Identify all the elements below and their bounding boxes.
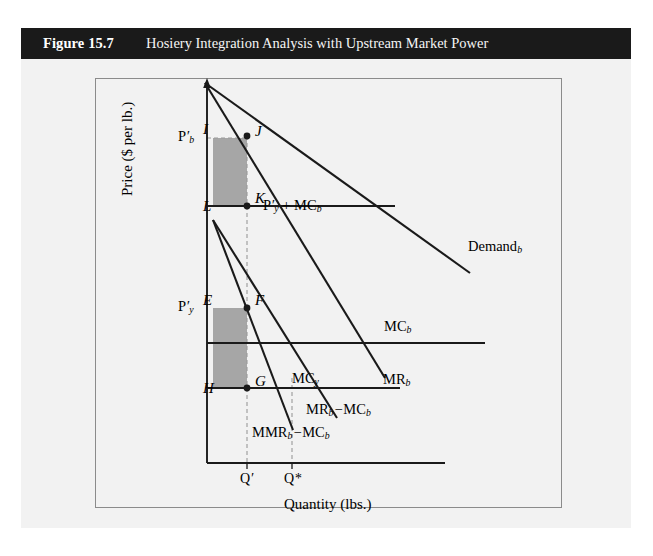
curve-label-demand-b-sub: b <box>517 244 522 255</box>
curve-label-mc-y: MCy <box>292 371 319 387</box>
x-tick-label-q-prime: Q′ <box>240 472 253 486</box>
curve-label-mc-b-sub: b <box>407 324 412 335</box>
point-label-i: I <box>203 122 208 137</box>
point-label-h: H <box>203 381 214 396</box>
y-tick-label-p-y: P′y <box>178 299 194 315</box>
x-tick-label-q-star: Q* <box>284 472 301 486</box>
curve-label-mc-b: MCb <box>384 319 412 335</box>
point-marker-f <box>244 305 251 312</box>
curve-label-mmrb-minus-mcb: MMRb−MCb <box>252 425 330 441</box>
curve-label-mc-b-text: MC <box>384 318 407 334</box>
curve-label-demand-b-text: Demand <box>468 238 517 254</box>
plot-canvas <box>95 78 562 508</box>
point-label-j: J <box>255 124 262 139</box>
point-label-l: L <box>203 199 211 214</box>
point-marker-g <box>244 385 251 392</box>
figure-number: Figure 15.7 <box>43 35 114 52</box>
point-marker-j <box>244 133 251 140</box>
curve-label-mr-b: MRb <box>383 372 411 388</box>
y-axis-title: Price ($ per lb.) <box>119 36 136 196</box>
point-label-g: G <box>255 374 266 389</box>
curve-label-mr-b-text: MR <box>383 371 406 387</box>
curve-label-mc-y-text: MC <box>292 370 315 386</box>
curve-label-demand-b: Demandb <box>468 239 522 255</box>
x-axis-title: Quantity (lbs.) <box>284 497 372 512</box>
y-tick-label-p-b: P′b <box>178 129 194 145</box>
point-label-f: F <box>255 293 264 308</box>
shaded-region-ijkl <box>213 138 247 206</box>
figure-root: Figure 15.7 Hosiery Integration Analysis… <box>0 0 653 556</box>
curve-label-py-plus-mcb: P′y + MCb <box>263 198 322 214</box>
point-marker-k <box>244 203 251 210</box>
point-label-e: E <box>203 293 212 308</box>
curve-label-mrb-minus-mcb: MRb−MCb <box>306 402 371 418</box>
curve-label-mr-b-sub: b <box>406 377 411 388</box>
curve-label-mc-y-sub: y <box>315 376 319 387</box>
figure-title-bar: Figure 15.7 Hosiery Integration Analysis… <box>21 28 631 59</box>
figure-title: Hosiery Integration Analysis with Upstre… <box>146 35 488 52</box>
shaded-region-efgh <box>213 308 247 388</box>
